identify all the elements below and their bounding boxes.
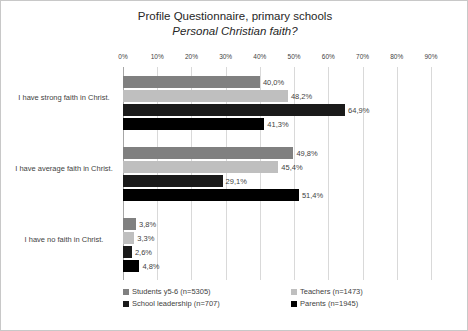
chart-title-block: Profile Questionnaire, primary schools P… xyxy=(1,9,468,39)
legend-swatch-icon xyxy=(123,289,129,295)
legend-item[interactable]: Teachers (n=1473) xyxy=(291,287,363,296)
x-tick-label: 70% xyxy=(346,53,380,60)
bar[interactable] xyxy=(123,147,293,159)
bar-row: 3,3% xyxy=(123,232,431,244)
bar-row: 51,4% xyxy=(123,189,431,201)
x-tick-label: 60% xyxy=(311,53,345,60)
legend-label: Teachers (n=1473) xyxy=(300,287,363,296)
x-tick-label: 0% xyxy=(106,53,140,60)
x-tick-label: 20% xyxy=(174,53,208,60)
x-axis-tick-labels: 0%10%20%30%40%50%60%70%80%90% xyxy=(123,53,431,65)
bar-row: 2,6% xyxy=(123,246,431,258)
bar[interactable] xyxy=(123,260,139,272)
bar[interactable] xyxy=(123,246,132,258)
bar-value-label: 41,3% xyxy=(264,119,288,128)
chart-subtitle: Personal Christian faith? xyxy=(1,24,468,39)
bar-row: 4,8% xyxy=(123,260,431,272)
legend-label: School leadership (n=707) xyxy=(132,299,220,308)
legend-item[interactable]: Students y5-6 (n=5305) xyxy=(123,287,211,296)
bar-row: 64,9% xyxy=(123,104,431,116)
bar-group: 3,8%3,3%2,6%4,8% xyxy=(123,209,431,280)
bar[interactable] xyxy=(123,76,260,88)
bar[interactable] xyxy=(123,90,288,102)
legend-item[interactable]: Parents (n=1945) xyxy=(291,299,358,308)
bar[interactable] xyxy=(123,232,134,244)
bar[interactable] xyxy=(123,118,264,130)
legend-label: Students y5-6 (n=5305) xyxy=(132,287,211,296)
category-label: I have no faith in Christ. xyxy=(9,235,119,245)
category-label: I have strong faith in Christ. xyxy=(9,93,119,103)
bar[interactable] xyxy=(123,104,345,116)
plot-area: 40,0%48,2%64,9%41,3%49,8%45,4%29,1%51,4%… xyxy=(123,67,431,280)
chart-legend: Students y5-6 (n=5305)Teachers (n=1473)S… xyxy=(123,287,433,315)
bar-row: 48,2% xyxy=(123,90,431,102)
bar-row: 45,4% xyxy=(123,161,431,173)
bar-value-label: 48,2% xyxy=(288,91,312,100)
bar-row: 3,8% xyxy=(123,218,431,230)
bar-group: 49,8%45,4%29,1%51,4% xyxy=(123,138,431,209)
bar-value-label: 4,8% xyxy=(139,261,159,270)
bar[interactable] xyxy=(123,189,299,201)
legend-swatch-icon xyxy=(123,301,129,307)
x-tick-label: 10% xyxy=(140,53,174,60)
chart-title: Profile Questionnaire, primary schools xyxy=(1,9,468,24)
category-label: I have average faith in Christ. xyxy=(9,164,119,174)
bar-value-label: 64,9% xyxy=(345,105,369,114)
bar[interactable] xyxy=(123,175,223,187)
bar-value-label: 3,3% xyxy=(134,233,154,242)
bar[interactable] xyxy=(123,161,278,173)
legend-label: Parents (n=1945) xyxy=(300,299,358,308)
bar[interactable] xyxy=(123,218,136,230)
x-tick-label: 80% xyxy=(380,53,414,60)
x-tick-label: 50% xyxy=(277,53,311,60)
legend-item[interactable]: School leadership (n=707) xyxy=(123,299,220,308)
x-tick-label: 90% xyxy=(414,53,448,60)
legend-swatch-icon xyxy=(291,301,297,307)
x-tick-label: 30% xyxy=(209,53,243,60)
bar-row: 40,0% xyxy=(123,76,431,88)
bar-group: 40,0%48,2%64,9%41,3% xyxy=(123,67,431,138)
bar-value-label: 3,8% xyxy=(136,219,156,228)
bar-value-label: 45,4% xyxy=(278,162,302,171)
bar-row: 41,3% xyxy=(123,118,431,130)
x-tick-label: 40% xyxy=(243,53,277,60)
bar-value-label: 29,1% xyxy=(223,176,247,185)
bar-value-label: 40,0% xyxy=(260,77,284,86)
gridline xyxy=(431,67,432,280)
bar-row: 29,1% xyxy=(123,175,431,187)
bar-value-label: 51,4% xyxy=(299,190,323,199)
bar-value-label: 49,8% xyxy=(293,148,317,157)
bar-value-label: 2,6% xyxy=(132,247,152,256)
chart-container: Profile Questionnaire, primary schools P… xyxy=(0,0,468,331)
legend-swatch-icon xyxy=(291,289,297,295)
bar-row: 49,8% xyxy=(123,147,431,159)
